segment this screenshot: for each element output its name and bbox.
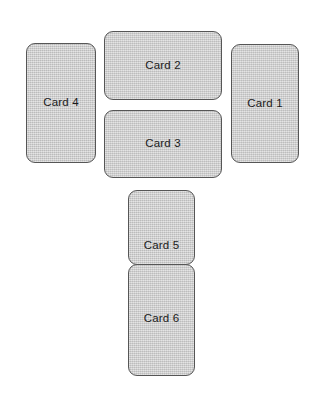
card-2-label: Card 2 [145,60,180,72]
card-5[interactable]: Card 5 [128,190,195,265]
card-6-label: Card 6 [144,313,179,325]
card-1[interactable]: Card 1 [231,44,299,163]
card-6[interactable]: Card 6 [128,264,195,376]
card-1-label: Card 1 [247,98,282,110]
card-4-label: Card 4 [43,97,78,109]
card-3-label: Card 3 [145,138,180,150]
card-layout-canvas: Card 4 Card 2 Card 3 Card 1 Card 5 Card … [0,0,317,412]
card-3[interactable]: Card 3 [104,110,222,178]
card-2[interactable]: Card 2 [104,31,222,100]
card-4[interactable]: Card 4 [26,43,96,163]
card-5-label: Card 5 [144,240,179,252]
